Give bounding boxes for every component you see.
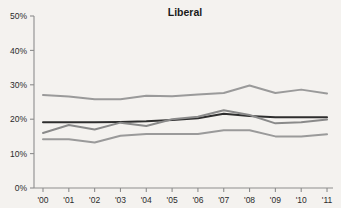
- x-axis-tick-label: '10: [296, 195, 307, 205]
- chart-title: Liberal: [168, 6, 203, 18]
- y-axis-tick-label: 40%: [10, 46, 27, 56]
- x-axis-tick-label: '00: [37, 195, 48, 205]
- x-axis-tick-label: '05: [167, 195, 178, 205]
- line-chart: Liberal 0%10%20%30%40%50% '00'01'02'03'0…: [0, 0, 341, 208]
- x-axis-tick-label: '07: [218, 195, 229, 205]
- y-axis-tick-label: 30%: [10, 80, 27, 90]
- x-axis-tick-label: '01: [63, 195, 74, 205]
- chart-background: [0, 0, 341, 208]
- chart-container: Liberal 0%10%20%30%40%50% '00'01'02'03'0…: [0, 0, 341, 208]
- y-axis-tick-label: 20%: [10, 114, 27, 124]
- x-axis-tick-label: '11: [322, 195, 333, 205]
- x-axis-tick-label: '09: [270, 195, 281, 205]
- x-axis-tick-label: '03: [115, 195, 126, 205]
- x-axis-tick-label: '02: [89, 195, 100, 205]
- y-axis-tick-label: 50%: [10, 11, 27, 21]
- x-axis-tick-label: '04: [141, 195, 152, 205]
- y-axis-tick-label: 10%: [10, 149, 27, 159]
- x-axis-tick-label: '08: [244, 195, 255, 205]
- x-axis-tick-label: '06: [192, 195, 203, 205]
- y-axis-tick-label: 0%: [15, 183, 28, 193]
